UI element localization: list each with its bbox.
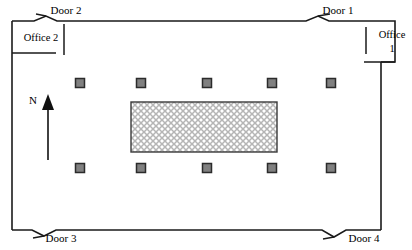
door-label-door-3: Door 3 <box>46 232 77 244</box>
door-2-swing-icon <box>36 14 46 16</box>
door-label-door-2: Door 2 <box>51 4 82 16</box>
central-obstruction <box>131 102 277 152</box>
column-marker-top-3 <box>203 79 212 88</box>
floor-plan-canvas: Door 2Door 1Door 3Door 4Office 2Office1N <box>0 0 412 250</box>
north-label: N <box>29 94 37 106</box>
column-marker-top-2 <box>137 79 146 88</box>
north-arrow-icon <box>42 94 54 160</box>
column-marker-top-1 <box>76 79 85 88</box>
column-marker-bottom-5 <box>327 164 336 173</box>
floor-plan-diagram: Door 2Door 1Door 3Door 4Office 2Office1N <box>0 0 412 250</box>
door-label-door-1: Door 1 <box>323 4 354 16</box>
office-label-office-1: Office <box>379 29 406 40</box>
column-marker-top-4 <box>268 79 277 88</box>
door-4-swing-icon <box>323 237 334 239</box>
column-marker-bottom-2 <box>137 164 146 173</box>
door-label-door-4: Door 4 <box>349 232 380 244</box>
office-number-office-1: 1 <box>389 43 394 54</box>
column-marker-bottom-3 <box>203 164 212 173</box>
door-3-swing-icon <box>33 236 44 238</box>
column-marker-bottom-1 <box>76 164 85 173</box>
column-marker-bottom-4 <box>268 164 277 173</box>
office-label-office-2: Office 2 <box>24 32 59 43</box>
column-marker-top-5 <box>327 79 336 88</box>
exterior-wall-top <box>12 16 360 21</box>
